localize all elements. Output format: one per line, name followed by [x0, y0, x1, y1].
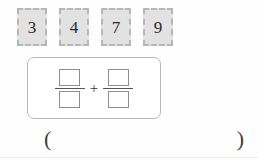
number-tile[interactable]: 7	[101, 8, 131, 46]
number-tile[interactable]: 3	[17, 8, 47, 46]
number-tile-value: 7	[112, 19, 121, 36]
right-fraction	[100, 69, 136, 108]
close-paren: )	[237, 128, 244, 150]
number-tile-value: 3	[28, 19, 37, 36]
fraction-expression-panel: +	[27, 57, 161, 119]
worksheet-page: 3 4 7 9 + ( )	[0, 0, 258, 161]
number-tile[interactable]: 4	[59, 8, 89, 46]
answer-field[interactable]: ( )	[44, 126, 244, 152]
left-numerator-slot[interactable]	[59, 69, 80, 86]
left-fraction	[52, 69, 88, 108]
fraction-expression: +	[52, 69, 136, 108]
right-numerator-slot[interactable]	[108, 69, 129, 86]
open-paren: (	[44, 128, 51, 150]
right-fraction-bar	[103, 88, 133, 89]
left-denominator-slot[interactable]	[59, 91, 80, 108]
plus-icon: +	[89, 81, 99, 96]
number-tile-value: 4	[70, 19, 79, 36]
bottom-divider	[0, 157, 258, 158]
right-denominator-slot[interactable]	[108, 91, 129, 108]
number-tile-value: 9	[154, 19, 163, 36]
number-tile[interactable]: 9	[143, 8, 173, 46]
left-fraction-bar	[55, 88, 85, 89]
number-tiles: 3 4 7 9	[17, 8, 173, 46]
